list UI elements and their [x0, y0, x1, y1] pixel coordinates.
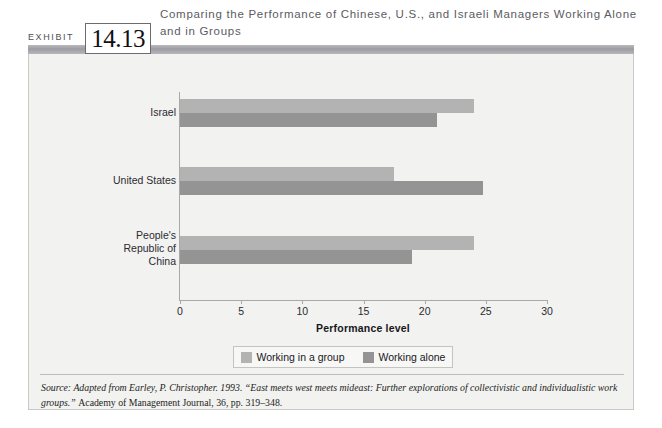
- exhibit-number-box: 14.13: [85, 23, 151, 54]
- legend-swatch-icon: [363, 352, 374, 363]
- exhibit-number: 14.13: [86, 24, 150, 54]
- x-axis-tick-label: 5: [226, 305, 256, 317]
- legend-label: Working alone: [379, 351, 446, 363]
- x-axis-tick: [364, 300, 365, 304]
- bar-israel-working-in-a-group: [180, 99, 474, 113]
- legend-swatch-icon: [241, 352, 252, 363]
- x-axis-tick: [241, 300, 242, 304]
- source-note-roman: Academy of Management Journal, 36, pp. 3…: [78, 397, 282, 408]
- category-label-china: People's Republic of China: [56, 229, 176, 268]
- bar-united-states-working-alone: [180, 181, 483, 195]
- exhibit-header: EXHIBIT 14.13 Comparing the Performance …: [0, 0, 662, 56]
- chart-panel: Israel United States People's Republic o…: [28, 54, 634, 410]
- bar-china-working-alone: [180, 250, 412, 264]
- category-label-line: People's: [136, 229, 176, 241]
- category-label-line: Israel: [150, 106, 176, 118]
- chart-legend: Working in a group Working alone: [233, 346, 453, 368]
- x-axis-tick-label: 25: [471, 305, 501, 317]
- category-label-israel: Israel: [56, 106, 176, 119]
- bar-china-working-in-a-group: [180, 236, 474, 250]
- bar-united-states-working-in-a-group: [180, 167, 394, 181]
- exhibit-title: Comparing the Performance of Chinese, U.…: [160, 6, 640, 40]
- category-label-line: Republic of: [123, 242, 176, 254]
- x-axis-tick-label: 15: [349, 305, 379, 317]
- source-divider: [40, 374, 624, 375]
- legend-entry-working-in-a-group: Working in a group: [241, 351, 345, 363]
- bar-israel-working-alone: [180, 113, 437, 127]
- legend-label: Working in a group: [257, 351, 345, 363]
- x-axis-tick: [302, 300, 303, 304]
- category-label-united-states: United States: [56, 174, 176, 187]
- legend-entry-working-alone: Working alone: [363, 351, 446, 363]
- x-axis-tick-label: 0: [165, 305, 195, 317]
- plot-area: Israel United States People's Republic o…: [29, 54, 635, 314]
- source-note: Source: Adapted from Earley, P. Christop…: [41, 380, 623, 410]
- x-axis-tick: [425, 300, 426, 304]
- x-axis-tick-label: 20: [410, 305, 440, 317]
- category-label-line: China: [149, 255, 176, 267]
- x-axis-tick: [180, 300, 181, 304]
- x-axis-tick-label: 30: [532, 305, 562, 317]
- x-axis-tick: [547, 300, 548, 304]
- x-axis-tick-label: 10: [287, 305, 317, 317]
- x-axis-title: Performance level: [179, 322, 547, 334]
- category-label-line: United States: [113, 174, 176, 186]
- exhibit-word-label: EXHIBIT: [28, 32, 74, 42]
- x-axis-tick: [486, 300, 487, 304]
